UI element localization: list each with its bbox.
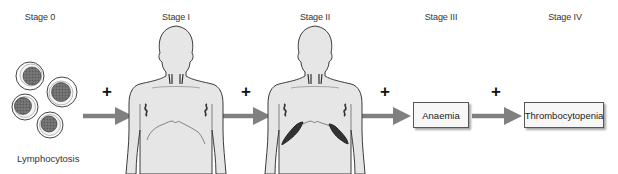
- stage-2-body-figure-icon: [265, 26, 365, 174]
- plus-connector-3: +: [380, 83, 390, 100]
- diagram-graphics: [0, 0, 618, 174]
- anaemia-box: Anaemia: [413, 102, 469, 128]
- plus-connector-4: +: [491, 83, 501, 100]
- lymphocytosis-caption: Lymphocytosis: [17, 153, 79, 164]
- stage-1-body-figure-icon: [126, 26, 226, 174]
- plus-connector-1: +: [102, 83, 112, 100]
- thrombocytopenia-label: Thrombocytopenia: [525, 110, 604, 121]
- anaemia-label: Anaemia: [422, 110, 460, 121]
- plus-connector-2: +: [241, 83, 251, 100]
- lymphocyte-cells-icon: [12, 62, 77, 138]
- thrombocytopenia-box: Thrombocytopenia: [524, 102, 604, 128]
